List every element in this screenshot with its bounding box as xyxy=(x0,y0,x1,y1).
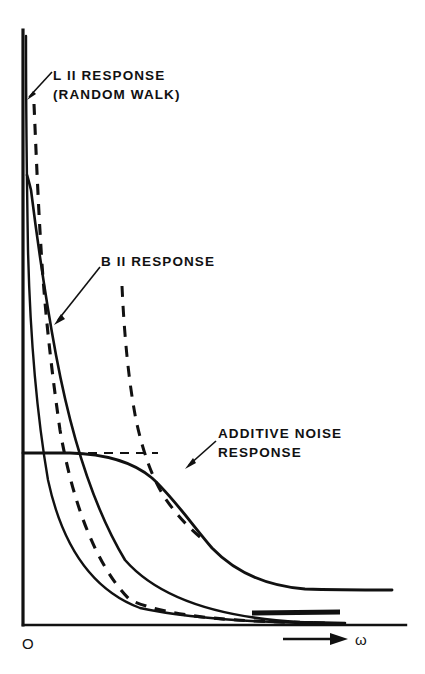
leader-arrowhead-bii xyxy=(54,314,65,325)
curve-additive-noise-response xyxy=(23,453,392,590)
leader-line-bii xyxy=(58,267,100,320)
figure-container: L II RESPONSE (RANDOM WALK) B II RESPONS… xyxy=(0,0,425,674)
annotation-additive-noise-response: ADDITIVE NOISE RESPONSE xyxy=(218,424,342,462)
curve-bii-response-solid xyxy=(27,175,345,623)
annotation-bii-response: B II RESPONSE xyxy=(101,252,215,271)
x-axis-label-omega: ω xyxy=(355,630,367,649)
annotation-lii-response: L II RESPONSE (RANDOM WALK) xyxy=(53,66,181,104)
curve-inner-solid-response xyxy=(26,36,340,624)
omega-arrow-head-icon xyxy=(330,633,348,645)
curve-bii-dashed-branch xyxy=(122,286,200,537)
curve-overlap-thick-segment xyxy=(252,612,340,613)
curve-lii-response-dashed xyxy=(34,104,330,623)
leader-arrowhead-lii xyxy=(27,91,36,100)
axis-origin-label: O xyxy=(22,634,34,653)
